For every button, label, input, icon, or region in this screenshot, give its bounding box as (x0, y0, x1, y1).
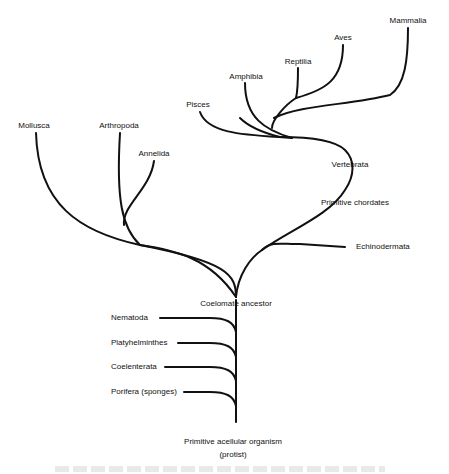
label-platyhelminthes: Platyhelminthes (111, 338, 167, 348)
label-root-organism: Primitive acellular organism (184, 437, 282, 447)
label-annelida: Annelida (138, 149, 169, 159)
label-porifera: Porifera (sponges) (111, 387, 177, 397)
label-mammalia: Mammalia (390, 16, 427, 26)
label-coelenterata: Coelenterata (111, 362, 157, 372)
phylogenetic-tree-lines (0, 0, 449, 474)
branch-protostome (140, 245, 236, 297)
label-aves: Aves (334, 33, 352, 43)
branch-echinodermata (262, 244, 345, 250)
label-arthropoda: Arthropoda (99, 121, 139, 131)
label-mollusca: Mollusca (18, 121, 50, 131)
label-pisces: Pisces (186, 100, 210, 110)
branch-arthropoda (119, 133, 140, 245)
label-echinodermata: Echinodermata (356, 242, 410, 252)
branch-porifera (184, 392, 236, 406)
branch-platyhelminthes (178, 343, 236, 357)
label-coelomate-ancestor: Coelomate ancestor (200, 299, 272, 309)
branch-aves (296, 45, 343, 98)
branch-deuterostome (236, 250, 262, 297)
branch-protostome-continue (140, 245, 236, 297)
branch-annelida (124, 161, 154, 225)
branch-primitive-chordates (262, 137, 353, 250)
branch-reptilia (296, 68, 298, 98)
label-amphibia: Amphibia (229, 72, 262, 82)
figure-caption-cropped (55, 466, 385, 472)
branch-amphibia (245, 83, 292, 138)
label-reptilia: Reptilia (285, 57, 312, 67)
branch-nematoda (160, 318, 236, 332)
label-nematoda: Nematoda (111, 313, 148, 323)
label-primitive-chordates: Primitive chordates (321, 198, 389, 208)
branch-coelenterata (165, 367, 236, 381)
label-vertebrata: Vertebrata (332, 160, 369, 170)
branch-mollusca (36, 133, 140, 245)
label-root-protist: (protist) (219, 450, 246, 460)
